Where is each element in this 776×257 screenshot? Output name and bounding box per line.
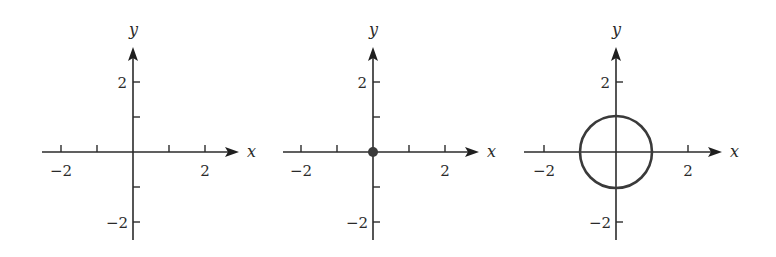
- y-tick-label-2: 2: [117, 74, 127, 92]
- y-axis-label: y: [368, 20, 379, 39]
- x-tick-label-neg2: −2: [290, 162, 312, 180]
- x-tick-label-neg2: −2: [50, 162, 72, 180]
- panel-unit-circle: −2 2 2 −2 x y: [524, 20, 739, 240]
- panel-point-origin: −2 2 2 −2 x y: [283, 20, 496, 240]
- x-tick-label-2: 2: [683, 162, 693, 180]
- x-tick-label-2: 2: [440, 162, 450, 180]
- y-tick-label-neg2: −2: [106, 214, 128, 232]
- x-tick-label-2: 2: [200, 162, 210, 180]
- y-tick-label-2: 2: [357, 74, 367, 92]
- y-axis-label: y: [128, 20, 139, 39]
- y-tick-label-2: 2: [600, 74, 610, 92]
- y-tick-label-neg2: −2: [346, 214, 368, 232]
- x-tick-label-neg2: −2: [533, 162, 555, 180]
- y-axis-label: y: [611, 20, 622, 39]
- x-axis-label: x: [730, 142, 739, 161]
- y-tick-label-neg2: −2: [589, 214, 611, 232]
- panel-axes-only: −2 2 2 −2 x y: [42, 20, 256, 240]
- x-axis-label: x: [247, 142, 256, 161]
- x-axis-label: x: [487, 142, 496, 161]
- origin-point: [368, 147, 378, 157]
- figure: −2 2 2 −2 x y −2 2 2 −2 x y: [0, 0, 776, 257]
